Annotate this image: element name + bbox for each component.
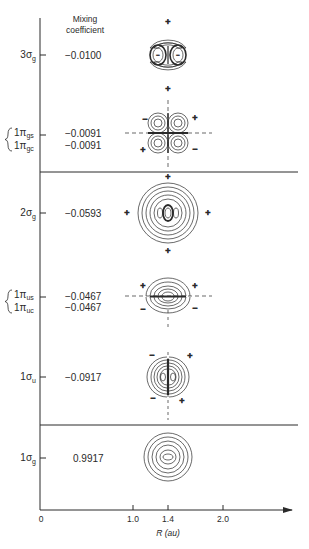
- coef-1pgc: −0.0091: [65, 140, 102, 151]
- coef-3sg: −0.0100: [65, 50, 102, 61]
- sign-plus: +: [140, 281, 145, 291]
- state-1pgs: 1πgs: [14, 127, 34, 140]
- sign-plus: +: [140, 145, 145, 155]
- contour-1sg: [144, 433, 192, 481]
- sign-plus: +: [192, 281, 197, 291]
- coef-1sg: 0.9917: [73, 453, 104, 464]
- x-axis-label: R (au): [156, 528, 180, 538]
- sign-minus: −: [150, 393, 155, 403]
- tick-0: 0: [39, 514, 44, 524]
- header-line1: Mixing: [73, 14, 98, 24]
- sign-plus: +: [192, 113, 197, 123]
- sign-plus: +: [187, 351, 192, 361]
- state-3sg: 3σg: [20, 49, 36, 63]
- header-line2: coefficient: [66, 25, 105, 35]
- state-1pgc: 1πgc: [14, 140, 34, 153]
- state-1pus: 1πus: [14, 289, 34, 301]
- sign-plus: +: [165, 172, 170, 182]
- contour-1su: [147, 352, 189, 420]
- state-1su: 1σu: [20, 371, 36, 384]
- state-labels: 3σg 1πgs 1πgc 2σg 1πus 1πuc 1σu 1σg: [5, 49, 36, 466]
- coefficients: −0.0100 −0.0091 −0.0091 −0.0593 −0.0467 …: [65, 50, 104, 464]
- brace-1pu: [5, 290, 12, 313]
- contour-1pu: [125, 278, 212, 330]
- state-1puc: 1πuc: [14, 302, 34, 314]
- coef-1su: −0.0917: [65, 372, 102, 383]
- sign-minus: −: [192, 303, 197, 313]
- mixing-coefficient-diagram: Mixing coefficient 0 1.0 1.4 2.0 R (au) …: [0, 0, 309, 549]
- sign-minus: −: [176, 52, 180, 58]
- sign-plus: +: [165, 84, 170, 94]
- sign-plus: +: [179, 396, 184, 406]
- sign-minus: −: [192, 144, 197, 154]
- sign-plus: +: [165, 17, 170, 27]
- sign-plus: +: [205, 208, 210, 218]
- sign-plus: +: [124, 208, 129, 218]
- sign-plus: +: [165, 246, 170, 256]
- tick-1-4: 1.4: [162, 514, 174, 524]
- sign-minus: −: [156, 52, 160, 58]
- contour-1pg: [125, 100, 212, 170]
- contour-2sg: [138, 183, 198, 243]
- sign-minus: −: [140, 304, 145, 314]
- coef-1puc: −0.0467: [65, 302, 102, 313]
- tick-1-0: 1.0: [127, 514, 139, 524]
- coef-2sg: −0.0593: [65, 208, 102, 219]
- x-axis-ticks: 0 1.0 1.4 2.0: [39, 505, 230, 524]
- brace-1pg: [5, 128, 12, 151]
- tick-2-0: 2.0: [217, 514, 229, 524]
- y-axis-ticks: [40, 55, 46, 458]
- state-2sg: 2σg: [20, 207, 36, 221]
- sign-minus: −: [142, 114, 147, 124]
- sign-minus: −: [149, 350, 154, 360]
- coef-1pgs: −0.0091: [65, 128, 102, 139]
- state-1sg: 1σg: [20, 452, 36, 466]
- coef-1pus: −0.0467: [65, 291, 102, 302]
